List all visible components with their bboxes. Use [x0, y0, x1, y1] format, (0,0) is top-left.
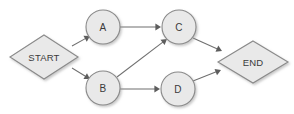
arrowhead-icon: [160, 39, 167, 45]
node-c[interactable]: C: [162, 10, 196, 44]
node-d[interactable]: D: [161, 72, 195, 106]
node-label-end: END: [243, 57, 264, 68]
node-label-d: D: [174, 84, 181, 95]
node-start[interactable]: START: [10, 35, 78, 79]
edge-b-d: [120, 86, 160, 93]
edge-line: [72, 38, 86, 46]
edge-line: [117, 42, 163, 77]
edge-c-end: [193, 38, 222, 52]
edge-start-a: [72, 36, 90, 46]
edge-line: [72, 68, 86, 77]
edge-b-c: [117, 39, 167, 77]
node-b[interactable]: B: [86, 71, 120, 105]
edge-line: [193, 72, 217, 81]
nodes-layer: STARTABCDEND: [10, 10, 288, 106]
node-label-b: B: [100, 83, 107, 94]
arrowhead-icon: [154, 86, 160, 93]
flowchart-canvas: STARTABCDEND: [0, 0, 294, 114]
node-a[interactable]: A: [86, 10, 120, 44]
node-label-c: C: [175, 22, 182, 33]
flowchart-svg: STARTABCDEND: [0, 0, 294, 114]
arrowhead-icon: [155, 24, 161, 31]
node-label-start: START: [28, 52, 59, 63]
edge-line: [193, 38, 218, 49]
node-label-a: A: [100, 22, 107, 33]
edge-start-b: [72, 68, 90, 79]
node-end[interactable]: END: [218, 41, 288, 83]
edge-d-end: [193, 69, 221, 81]
edge-a-c: [120, 24, 161, 31]
